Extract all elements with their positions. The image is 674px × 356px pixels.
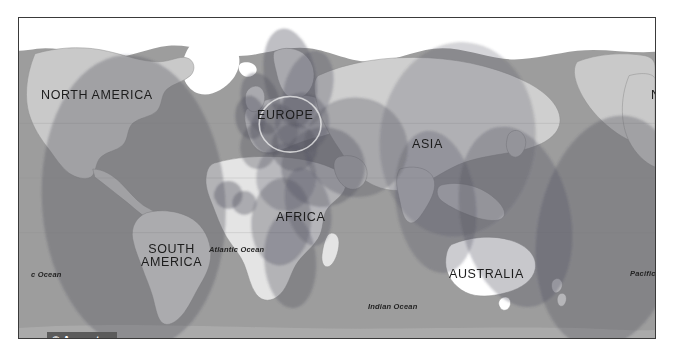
map-canvas (19, 18, 655, 338)
europe-circle-outline[interactable] (260, 98, 320, 152)
ancestry-watermark: © Ancestry (47, 332, 117, 339)
world-map[interactable]: NORTH AMERICA SOUTH AMERICA EUROPE AFRIC… (18, 17, 656, 339)
screenshot-root: NORTH AMERICA SOUTH AMERICA EUROPE AFRIC… (0, 0, 674, 356)
